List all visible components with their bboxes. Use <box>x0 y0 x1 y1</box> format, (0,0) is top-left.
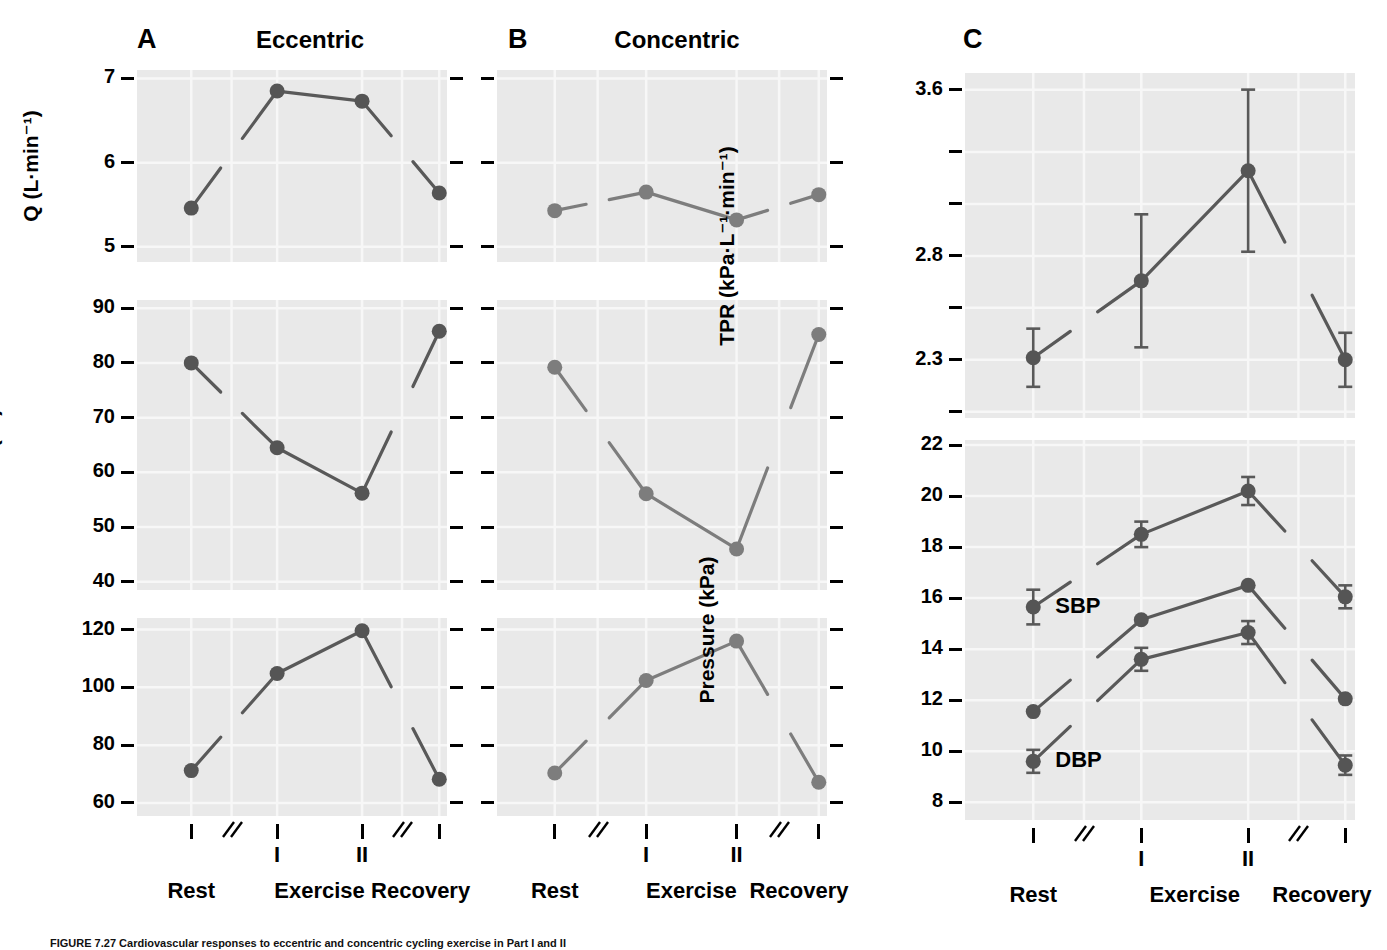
y-tick-mark <box>949 597 962 600</box>
x-tick-mark <box>817 824 820 839</box>
y-tick-mark-mirror <box>450 361 463 364</box>
y-tick-mark <box>121 245 134 248</box>
x-tick-mark <box>1140 828 1143 843</box>
x-tick-label-two: II <box>707 842 767 868</box>
x-tick-label-two: II <box>1218 846 1278 872</box>
y-tick-label: 2.3 <box>835 348 943 368</box>
y-tick-label: 70 <box>7 406 115 426</box>
x-tick-mark <box>1247 828 1250 843</box>
panel-letter-a: A <box>137 24 157 55</box>
y-tick-label: 80 <box>7 733 115 753</box>
y-axis-title: Pressure (kPa) <box>695 465 719 795</box>
plot-area <box>137 300 447 590</box>
y-tick-label: 120 <box>7 618 115 638</box>
chart-panel-hr-concentric: IIIRestExerciseRecovery <box>497 618 827 816</box>
panel-letter-b: B <box>508 24 528 55</box>
y-tick-mark <box>121 744 134 747</box>
chart-panel-sv-concentric <box>497 300 827 590</box>
y-tick-mark-mirror <box>450 161 463 164</box>
y-tick-mark <box>949 202 962 205</box>
axis-break-marker <box>215 820 249 840</box>
y-tick-label: 2.8 <box>835 244 943 264</box>
y-tick-mark-mirror <box>450 245 463 248</box>
y-tick-label: 18 <box>835 535 943 555</box>
x-tick-mark <box>1032 828 1035 843</box>
chart-panel-q-concentric <box>497 70 827 262</box>
y-tick-mark <box>949 410 962 413</box>
x-category-recovery: Recovery <box>709 878 889 904</box>
plot-area <box>497 70 827 262</box>
x-tick-mark <box>438 824 441 839</box>
y-tick-mark-mirror <box>450 77 463 80</box>
column-title-concentric: Concentric <box>552 26 802 54</box>
y-tick-mark <box>121 580 134 583</box>
plot-area <box>497 618 827 816</box>
x-tick-label-two: II <box>332 842 392 868</box>
y-tick-mark-mirror <box>830 307 843 310</box>
y-tick-mark <box>121 471 134 474</box>
x-tick-label-one: I <box>1111 846 1171 872</box>
y-tick-mark <box>481 580 494 583</box>
plot-area <box>965 73 1355 418</box>
y-tick-mark <box>481 471 494 474</box>
chart-panel-sv-eccentric: 405060708090SV (ml) <box>137 300 447 590</box>
y-tick-mark <box>949 444 962 447</box>
panel-letter-c: C <box>963 24 983 55</box>
y-tick-mark-mirror <box>450 744 463 747</box>
y-tick-mark <box>481 361 494 364</box>
axis-break-marker <box>1067 824 1101 844</box>
y-tick-mark-mirror <box>830 526 843 529</box>
y-tick-mark <box>121 416 134 419</box>
y-tick-label: 80 <box>7 351 115 371</box>
y-tick-mark <box>481 416 494 419</box>
chart-panel-pressure: SBPDBP810121416182022Pressure (kPa)IIIRe… <box>965 440 1355 820</box>
plot-area <box>497 300 827 590</box>
series-label-dbp: DBP <box>1055 747 1101 773</box>
y-tick-mark <box>949 546 962 549</box>
y-tick-mark-mirror <box>450 526 463 529</box>
x-tick-mark <box>645 824 648 839</box>
y-tick-mark <box>121 801 134 804</box>
y-tick-mark <box>121 77 134 80</box>
x-tick-mark <box>361 824 364 839</box>
chart-panel-q-eccentric: 567Q (L·min⁻¹) <box>137 70 447 262</box>
y-tick-mark <box>949 750 962 753</box>
chart-panel-hr-eccentric: 6080100120HR (bt·min⁻¹)IIIRestExerciseRe… <box>137 618 447 816</box>
y-tick-mark <box>949 801 962 804</box>
figure-canvas: A Eccentric B Concentric C 567Q (L·min⁻¹… <box>0 0 1387 950</box>
x-tick-mark <box>276 824 279 839</box>
y-tick-label: 14 <box>835 637 943 657</box>
y-tick-mark <box>481 801 494 804</box>
y-tick-mark-mirror <box>450 307 463 310</box>
y-tick-mark <box>949 648 962 651</box>
axis-break-marker <box>762 820 796 840</box>
y-tick-mark-mirror <box>450 580 463 583</box>
series-label-sbp: SBP <box>1055 593 1100 619</box>
y-tick-mark-mirror <box>830 471 843 474</box>
y-tick-mark <box>121 361 134 364</box>
y-tick-mark <box>949 88 962 91</box>
y-tick-mark <box>949 495 962 498</box>
axis-break-marker <box>1281 824 1315 844</box>
axis-break-marker <box>581 820 615 840</box>
y-tick-mark <box>481 744 494 747</box>
y-tick-mark <box>481 245 494 248</box>
y-tick-mark <box>121 307 134 310</box>
y-axis-title: SV (ml) <box>0 345 3 545</box>
y-tick-label: 10 <box>835 739 943 759</box>
y-tick-mark <box>481 161 494 164</box>
axis-break-marker <box>385 820 419 840</box>
y-tick-mark <box>949 254 962 257</box>
y-tick-mark-mirror <box>830 628 843 631</box>
y-tick-mark <box>481 526 494 529</box>
y-tick-mark-mirror <box>450 471 463 474</box>
x-tick-label-one: I <box>616 842 676 868</box>
x-tick-mark <box>190 824 193 839</box>
y-tick-mark <box>121 628 134 631</box>
y-tick-mark-mirror <box>450 416 463 419</box>
y-tick-mark-mirror <box>450 801 463 804</box>
y-tick-mark-mirror <box>830 416 843 419</box>
y-tick-mark <box>949 699 962 702</box>
y-tick-label: 22 <box>835 433 943 453</box>
plot-area <box>137 618 447 816</box>
